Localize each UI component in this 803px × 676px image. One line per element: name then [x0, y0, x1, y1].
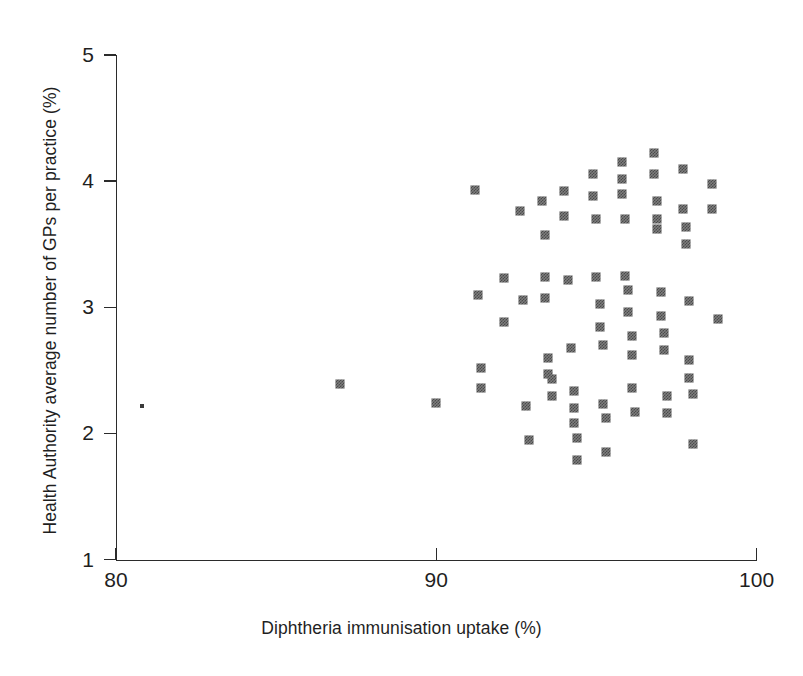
y-tick-1	[104, 559, 116, 560]
data-point	[627, 332, 636, 341]
data-point	[598, 400, 607, 409]
data-point	[573, 455, 582, 464]
data-point	[477, 363, 486, 372]
x-axis-title: Diphtheria immunisation uptake (%)	[0, 618, 803, 639]
data-point	[592, 214, 601, 223]
data-point	[589, 192, 598, 201]
data-point	[707, 179, 716, 188]
scatter-plot-figure: 12345 8090100 Diphtheria immunisation up…	[0, 0, 803, 676]
data-point	[570, 419, 579, 428]
data-point	[547, 391, 556, 400]
data-point	[518, 295, 527, 304]
y-tick-label-3: 3	[66, 296, 94, 317]
data-point	[653, 197, 662, 206]
y-axis-line	[116, 55, 117, 561]
y-tick-5	[104, 54, 116, 55]
data-point	[470, 185, 479, 194]
data-point	[544, 370, 553, 379]
data-point	[521, 401, 530, 410]
data-point	[432, 399, 441, 408]
data-point	[573, 434, 582, 443]
data-point	[602, 448, 611, 457]
data-point	[650, 169, 659, 178]
data-point	[336, 380, 345, 389]
y-tick-label-1: 1	[66, 549, 94, 570]
data-point	[630, 408, 639, 417]
data-point	[499, 318, 508, 327]
data-point	[563, 275, 572, 284]
y-tick-2	[104, 433, 116, 434]
data-point	[624, 285, 633, 294]
data-point	[544, 353, 553, 362]
x-tick-label-90: 90	[406, 569, 466, 590]
data-point	[541, 231, 550, 240]
data-point	[618, 174, 627, 183]
data-point	[499, 274, 508, 283]
data-point	[618, 189, 627, 198]
data-point	[477, 384, 486, 393]
data-point	[685, 373, 694, 382]
data-point	[627, 351, 636, 360]
data-point	[570, 386, 579, 395]
data-point	[688, 439, 697, 448]
data-point	[140, 404, 144, 408]
data-point	[682, 222, 691, 231]
data-point	[560, 187, 569, 196]
data-point	[650, 149, 659, 158]
data-point	[598, 341, 607, 350]
data-point	[707, 204, 716, 213]
data-point	[560, 212, 569, 221]
x-tick-100	[756, 548, 757, 560]
x-tick-80	[115, 548, 116, 560]
data-point	[656, 288, 665, 297]
data-point	[547, 375, 556, 384]
data-point	[662, 409, 671, 418]
x-tick-90	[436, 548, 437, 560]
y-tick-label-5: 5	[66, 44, 94, 65]
data-point	[624, 308, 633, 317]
data-point	[589, 169, 598, 178]
data-point	[602, 414, 611, 423]
data-point	[621, 214, 630, 223]
x-tick-label-80: 80	[86, 569, 146, 590]
data-point	[570, 404, 579, 413]
y-tick-3	[104, 307, 116, 308]
data-point	[618, 158, 627, 167]
data-point	[682, 240, 691, 249]
data-point	[537, 197, 546, 206]
data-point	[653, 225, 662, 234]
data-point	[685, 356, 694, 365]
data-point	[566, 343, 575, 352]
data-point	[525, 435, 534, 444]
y-tick-4	[104, 180, 116, 181]
data-point	[592, 273, 601, 282]
data-point	[595, 323, 604, 332]
data-point	[653, 214, 662, 223]
data-point	[659, 346, 668, 355]
data-point	[473, 290, 482, 299]
data-point	[688, 390, 697, 399]
data-point	[541, 294, 550, 303]
data-point	[678, 164, 687, 173]
data-point	[685, 296, 694, 305]
y-axis-title: Health Authority average number of GPs p…	[40, 31, 61, 591]
data-point	[714, 314, 723, 323]
data-point	[515, 207, 524, 216]
y-tick-label-2: 2	[66, 422, 94, 443]
data-point	[627, 384, 636, 393]
data-point	[595, 299, 604, 308]
data-point	[662, 391, 671, 400]
x-tick-label-100: 100	[727, 569, 787, 590]
data-point	[659, 328, 668, 337]
data-point	[541, 273, 550, 282]
y-tick-label-4: 4	[66, 170, 94, 191]
data-point	[621, 271, 630, 280]
data-point	[678, 204, 687, 213]
data-point	[656, 312, 665, 321]
